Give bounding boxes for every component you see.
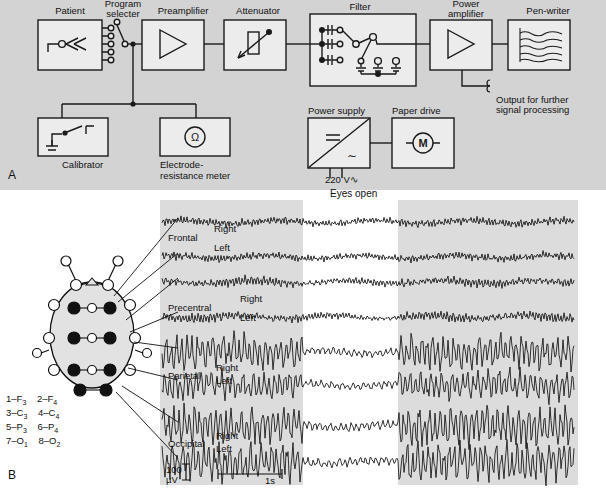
legend-row-2: 3–C3 4–C4 bbox=[6, 407, 59, 420]
pen-writer-box bbox=[508, 20, 570, 70]
eeg-trace bbox=[162, 311, 574, 323]
row-label-occipital-left: Left bbox=[216, 443, 232, 454]
mains-leads bbox=[330, 168, 342, 178]
filter-box bbox=[310, 14, 416, 86]
row-label-frontal-left: Left bbox=[214, 242, 230, 253]
ohm-symbol: Ω bbox=[191, 131, 199, 143]
panel-b: B Eyes open Frontal Right Left Precentra… bbox=[0, 190, 606, 495]
legend-row-1: 1–F3 2–F4 bbox=[6, 393, 57, 406]
preamplifier-box bbox=[142, 20, 204, 70]
row-label-precentral-right: Right bbox=[240, 293, 262, 304]
ac-symbol: ∼ bbox=[347, 149, 357, 163]
row-label-frontal-right: Right bbox=[214, 223, 236, 234]
legend-row-3: 5–P3 6–P4 bbox=[6, 421, 58, 434]
scale-bars bbox=[180, 462, 320, 492]
figure-root: Patient Program selecter Preamplifier At… bbox=[0, 0, 606, 495]
row-label-precentral-left: Left bbox=[240, 312, 256, 323]
rotary-switch-icon bbox=[102, 19, 142, 63]
panel-b-letter: B bbox=[8, 468, 16, 482]
panel-a-diagram: Ω M ∼ bbox=[0, 0, 606, 190]
row-label-parietal-left: Left bbox=[216, 375, 232, 386]
row-label-parietal-right: Right bbox=[216, 362, 238, 373]
row-label-occipital-right: Right bbox=[216, 430, 238, 441]
motor-symbol: M bbox=[418, 137, 427, 149]
legend-row-4: 7–O1 8–O2 bbox=[6, 435, 60, 448]
panel-a: Patient Program selecter Preamplifier At… bbox=[0, 0, 606, 190]
eeg-trace bbox=[162, 275, 574, 289]
power-amplifier-box bbox=[430, 20, 492, 70]
output-branch-line bbox=[462, 70, 490, 86]
eyes-open-label: Eyes open bbox=[330, 188, 377, 199]
